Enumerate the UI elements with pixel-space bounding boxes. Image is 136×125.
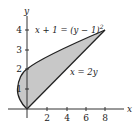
chart: 2 4 6 8 1 2 3 4 x y x + 1 = (y − 1)2 x =… (0, 0, 136, 125)
x-tick-label: 6 (83, 113, 89, 123)
x-tick-label: 4 (64, 113, 70, 123)
y-tick-label: 2 (16, 64, 22, 74)
x-axis-label: x (127, 104, 132, 114)
y-tick-label: 3 (16, 45, 22, 55)
y-tick-label: 1 (16, 84, 22, 94)
x-tick-label: 8 (102, 113, 108, 123)
line-label: x = 2y (70, 67, 98, 77)
y-axis-label: y (23, 6, 30, 16)
y-tick-label: 4 (16, 25, 22, 35)
x-tick-label: 2 (44, 113, 50, 123)
parabola-label: x + 1 = (y − 1)2 (35, 23, 104, 35)
